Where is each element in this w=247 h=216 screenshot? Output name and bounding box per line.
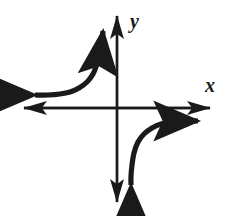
graph-figure: y x: [0, 0, 247, 216]
coordinate-graph-canvas: y x: [0, 0, 247, 216]
curve-branch-upper-left: [35, 31, 103, 95]
y-axis-label: y: [128, 10, 139, 33]
curve-branch-lower-right: [131, 121, 198, 185]
x-axis-label: x: [204, 74, 215, 96]
